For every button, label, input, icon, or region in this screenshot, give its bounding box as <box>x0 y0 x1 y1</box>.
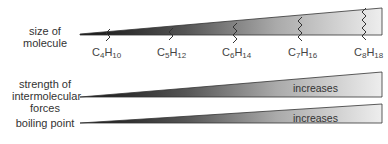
molecule-c7h16: C7H16 <box>288 46 317 60</box>
molecule-c8h18: C8H18 <box>354 46 383 60</box>
boiling-increases-text: increases <box>293 112 338 124</box>
molecule-c6h14: C6H14 <box>222 46 251 60</box>
molecule-c4h10: C4H10 <box>92 46 121 60</box>
molecule-c5h12: C5H12 <box>157 46 186 60</box>
strength-label: strength of intermolecular forces <box>12 78 78 114</box>
strength-increases-text: increases <box>293 82 338 94</box>
size-label: size of molecule <box>20 25 70 49</box>
boiling-label: boiling point <box>10 117 80 129</box>
size-wedge <box>80 8 382 35</box>
